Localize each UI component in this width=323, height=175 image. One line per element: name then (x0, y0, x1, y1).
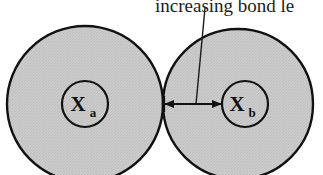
atom-a-symbol: X (70, 92, 85, 116)
bond-length-diagram: X a X b increasing bond le (0, 0, 323, 175)
atom-b-subscript: b (248, 105, 255, 120)
atom-a-subscript: a (90, 105, 97, 120)
caption-label: increasing bond le (155, 0, 294, 16)
diagram-canvas: X a X b increasing bond le (0, 0, 323, 175)
atom-b-symbol: X (229, 92, 244, 116)
